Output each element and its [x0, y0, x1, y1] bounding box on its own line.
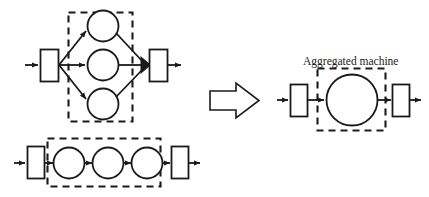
- aggregation-diagram: Aggregated machine: [0, 0, 429, 197]
- serial-machines-model: [14, 139, 200, 187]
- parallel-split-edge-top: [59, 31, 86, 65]
- parallel-output-place: [150, 50, 168, 82]
- serial-machine-3: [132, 148, 163, 179]
- implies-block-arrow: [210, 83, 259, 118]
- aggregated-input-place: [291, 85, 308, 117]
- parallel-input-place: [41, 50, 59, 82]
- serial-machine-2: [93, 148, 124, 179]
- parallel-split-edge-bottom: [59, 65, 86, 99]
- figure-container: Aggregated machine: [0, 0, 429, 197]
- serial-input-place: [28, 147, 45, 179]
- aggregated-machine: [327, 75, 378, 126]
- aggregated-output-place: [393, 85, 410, 117]
- aggregated-machine-label: Aggregated machine: [303, 55, 398, 68]
- parallel-machine-middle: [88, 50, 119, 81]
- parallel-join-edge-bottom: [116, 69, 143, 97]
- serial-machine-1: [54, 148, 85, 179]
- aggregated-machine-model: Aggregated machine: [277, 55, 421, 131]
- parallel-machines-model: [25, 11, 181, 122]
- serial-output-place: [172, 147, 189, 179]
- parallel-join-edge-top: [116, 33, 143, 62]
- parallel-machine-top: [88, 11, 119, 42]
- parallel-machine-bottom: [88, 89, 119, 120]
